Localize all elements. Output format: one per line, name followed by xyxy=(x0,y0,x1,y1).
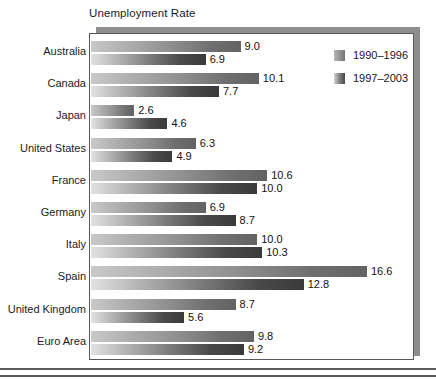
bar-group: 2.64.6 xyxy=(91,105,412,129)
bar-value-label: 9.0 xyxy=(242,40,261,52)
legend-item[interactable]: 1990–1996 xyxy=(334,48,410,64)
bar-series1 xyxy=(91,170,267,181)
bar-value-label: 8.7 xyxy=(237,298,256,310)
bar-row: 2.6 xyxy=(91,105,412,116)
legend-label: 1997–2003 xyxy=(353,72,408,85)
bar-row: 9.8 xyxy=(91,331,412,342)
bar-value-label: 10.3 xyxy=(263,246,288,258)
category-label: United Kingdom xyxy=(0,304,86,315)
bar-series2 xyxy=(91,86,219,97)
bar-series1 xyxy=(91,105,134,116)
chart-title: Unemployment Rate xyxy=(89,7,196,19)
bar-value-label: 6.9 xyxy=(207,53,226,65)
bar-group: 6.98.7 xyxy=(91,202,412,226)
category-label: Canada xyxy=(0,78,86,89)
bar-series2 xyxy=(91,215,236,226)
category-label: Spain xyxy=(0,271,86,282)
bar-value-label: 10.0 xyxy=(258,182,283,194)
bar-series2 xyxy=(91,54,206,65)
bar-series1 xyxy=(91,73,259,84)
bar-value-label: 10.6 xyxy=(268,169,293,181)
bar-series2 xyxy=(91,344,244,355)
bar-value-label: 12.8 xyxy=(305,278,330,290)
bar-series2 xyxy=(91,183,257,194)
bar-series1 xyxy=(91,202,206,213)
legend-swatch-icon xyxy=(334,73,345,84)
bar-value-label: 2.6 xyxy=(135,104,154,116)
bar-row: 10.6 xyxy=(91,170,412,181)
unemployment-rate-bar-chart: Unemployment Rate AustraliaCanadaJapanUn… xyxy=(0,0,436,379)
bar-value-label: 4.9 xyxy=(173,150,192,162)
bar-group: 10.010.3 xyxy=(91,234,412,258)
bar-row: 6.9 xyxy=(91,202,412,213)
bar-row: 12.8 xyxy=(91,279,412,290)
bar-series1 xyxy=(91,331,254,342)
bar-series2 xyxy=(91,279,304,290)
category-label: Italy xyxy=(0,239,86,250)
bar-group: 8.75.6 xyxy=(91,299,412,323)
bar-value-label: 10.1 xyxy=(260,72,285,84)
bar-series1 xyxy=(91,299,236,310)
bar-value-label: 4.6 xyxy=(168,117,187,129)
bar-series2 xyxy=(91,312,184,323)
bar-row: 4.9 xyxy=(91,151,412,162)
bar-value-label: 6.3 xyxy=(197,137,216,149)
bar-group: 9.89.2 xyxy=(91,331,412,355)
bar-row: 6.3 xyxy=(91,138,412,149)
bar-group: 6.34.9 xyxy=(91,138,412,162)
category-label: United States xyxy=(0,143,86,154)
category-label: Australia xyxy=(0,46,86,57)
category-label: Germany xyxy=(0,207,86,218)
bar-series1 xyxy=(91,234,257,245)
bar-value-label: 9.2 xyxy=(245,343,264,355)
bar-value-label: 7.7 xyxy=(220,85,239,97)
legend-item[interactable]: 1997–2003 xyxy=(334,71,410,87)
bar-series2 xyxy=(91,247,262,258)
bar-row: 8.7 xyxy=(91,299,412,310)
bar-row: 10.0 xyxy=(91,234,412,245)
category-axis: AustraliaCanadaJapanUnited StatesFranceG… xyxy=(0,33,86,360)
bar-value-label: 16.6 xyxy=(368,265,393,277)
bar-value-label: 6.9 xyxy=(207,201,226,213)
chart-legend: 1990–19961997–2003 xyxy=(334,48,410,94)
bar-row: 10.3 xyxy=(91,247,412,258)
category-label: France xyxy=(0,175,86,186)
category-label: Japan xyxy=(0,110,86,121)
bar-series1 xyxy=(91,41,241,52)
bottom-rule-upper xyxy=(0,368,436,370)
bar-row: 8.7 xyxy=(91,215,412,226)
bar-group: 10.610.0 xyxy=(91,170,412,194)
bottom-rule-lower xyxy=(0,375,436,377)
bar-row: 9.2 xyxy=(91,344,412,355)
bar-series1 xyxy=(91,266,367,277)
bar-series1 xyxy=(91,138,196,149)
bar-row: 10.0 xyxy=(91,183,412,194)
bar-value-label: 9.8 xyxy=(255,330,274,342)
category-label: Euro Area xyxy=(0,336,86,347)
bar-value-label: 5.6 xyxy=(185,311,204,323)
bar-series2 xyxy=(91,118,167,129)
legend-swatch-icon xyxy=(334,50,345,61)
legend-label: 1990–1996 xyxy=(353,49,408,62)
bar-row: 4.6 xyxy=(91,118,412,129)
bar-series2 xyxy=(91,151,172,162)
bar-row: 16.6 xyxy=(91,266,412,277)
bar-value-label: 10.0 xyxy=(258,233,283,245)
bar-row: 5.6 xyxy=(91,312,412,323)
bar-value-label: 8.7 xyxy=(237,214,256,226)
bar-group: 16.612.8 xyxy=(91,266,412,290)
